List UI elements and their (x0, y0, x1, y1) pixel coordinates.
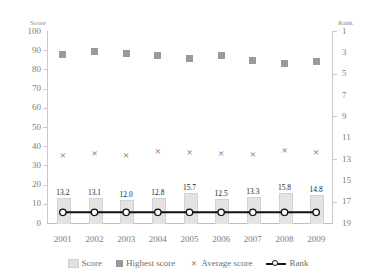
x-axis-tick-label: 2007 (236, 235, 270, 244)
score-data-label: 13.2 (50, 189, 76, 197)
rank-point-marker (281, 209, 287, 215)
line-circle-marker-icon (266, 259, 286, 268)
rank-point-marker (123, 209, 129, 215)
rank-point-marker (313, 209, 319, 215)
x-axis-tick-label: 2005 (173, 235, 207, 244)
legend-item[interactable]: Score (68, 258, 103, 268)
legend-item[interactable]: ×Average score (189, 258, 252, 268)
bar-swatch-icon (68, 259, 79, 268)
square-marker-icon (116, 260, 123, 267)
chart-legend: ScoreHighest score×Average scoreRank (0, 258, 376, 268)
x-axis-tick-label: 2002 (78, 235, 112, 244)
rank-point-marker (250, 209, 256, 215)
x-axis-tick-label: 2003 (109, 235, 143, 244)
x-axis-tick-label: 2009 (299, 235, 333, 244)
x-axis-tick-label: 2004 (141, 235, 175, 244)
x-marker-icon: × (189, 259, 198, 268)
legend-item-label: Highest score (126, 258, 175, 268)
legend-item-label: Average score (201, 258, 252, 268)
score-data-label: 14.8 (303, 186, 329, 194)
x-axis-tick-label: 2006 (204, 235, 238, 244)
score-data-label: 13.1 (82, 189, 108, 197)
legend-item-label: Rank (289, 258, 308, 268)
legend-item[interactable]: Rank (266, 258, 308, 268)
x-axis-tick-label: 2008 (268, 235, 302, 244)
rank-point-marker (60, 209, 66, 215)
score-data-label: 12.8 (145, 189, 171, 197)
rank-point-marker (91, 209, 97, 215)
score-data-label: 15.7 (177, 184, 203, 192)
rank-point-marker (218, 209, 224, 215)
legend-item-label: Score (82, 258, 103, 268)
x-axis-tick-label: 2001 (46, 235, 80, 244)
score-data-label: 12.0 (113, 191, 139, 199)
legend-item[interactable]: Highest score (116, 258, 175, 268)
score-data-label: 15.8 (272, 184, 298, 192)
score-data-label: 13.3 (240, 188, 266, 196)
rank-point-marker (186, 209, 192, 215)
score-data-label: 12.5 (208, 190, 234, 198)
rank-point-marker (155, 209, 161, 215)
chart-container: Score Rank 1009080706050403020100 135791… (0, 0, 376, 279)
